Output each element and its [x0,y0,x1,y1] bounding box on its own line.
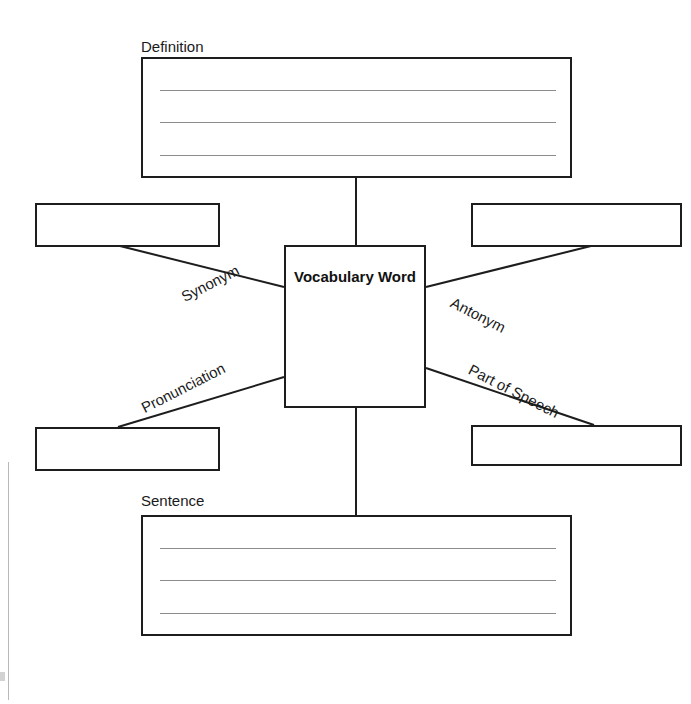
synonym-answer-box[interactable] [35,203,220,247]
writing-line [160,90,556,91]
antonym-answer-box[interactable] [471,203,682,247]
center-vocabulary-word-label: Vocabulary Word [294,268,416,285]
writing-line [160,580,556,581]
writing-line [160,548,556,549]
definition-caption: Definition [141,39,204,54]
pronunciation-answer-box[interactable] [35,427,220,471]
writing-line [160,122,556,123]
definition-answer-box[interactable] [141,57,572,178]
sentence-answer-box[interactable] [141,515,572,636]
sentence-caption: Sentence [141,493,204,508]
writing-line [160,613,556,614]
vocabulary-graphic-organizer: Definition Vocabulary Word Synonym Anton… [0,0,691,704]
part-of-speech-answer-box[interactable] [471,425,682,466]
connector-antonym [426,246,591,287]
writing-line [160,155,556,156]
